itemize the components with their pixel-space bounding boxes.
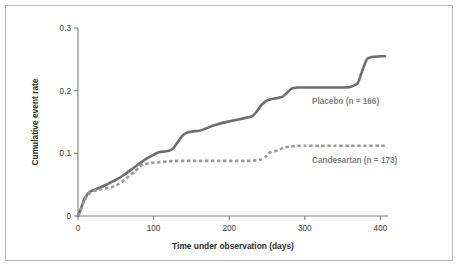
y-tick-label: 0.2 [60,87,72,96]
x-tick-label: 0 [76,224,81,233]
series-label-candesartan: Candesartan (n = 173) [312,156,398,165]
x-tick-label: 100 [147,224,161,233]
y-tick-label: 0 [66,212,71,221]
y-axis-tick-labels: 00.10.20.3 [60,24,72,221]
figure-container: 00.10.20.3 0100200300400 Time under obse… [0,0,458,266]
x-axis-ticks [78,216,380,220]
series-label-placebo: Placebo (n = 166) [312,97,379,106]
y-tick-label: 0.3 [60,24,72,33]
x-axis-title: Time under observation (days) [172,241,294,251]
y-axis-title: Cumulative event rate [30,78,40,165]
y-axis-ticks [74,28,78,216]
y-tick-label: 0.1 [60,149,72,158]
x-axis-tick-labels: 0100200300400 [76,224,388,233]
series-line-placebo [78,56,385,216]
x-tick-label: 400 [374,224,388,233]
x-tick-label: 200 [222,224,236,233]
cumulative-event-rate-chart: 00.10.20.3 0100200300400 Time under obse… [0,0,458,266]
x-tick-label: 300 [298,224,312,233]
